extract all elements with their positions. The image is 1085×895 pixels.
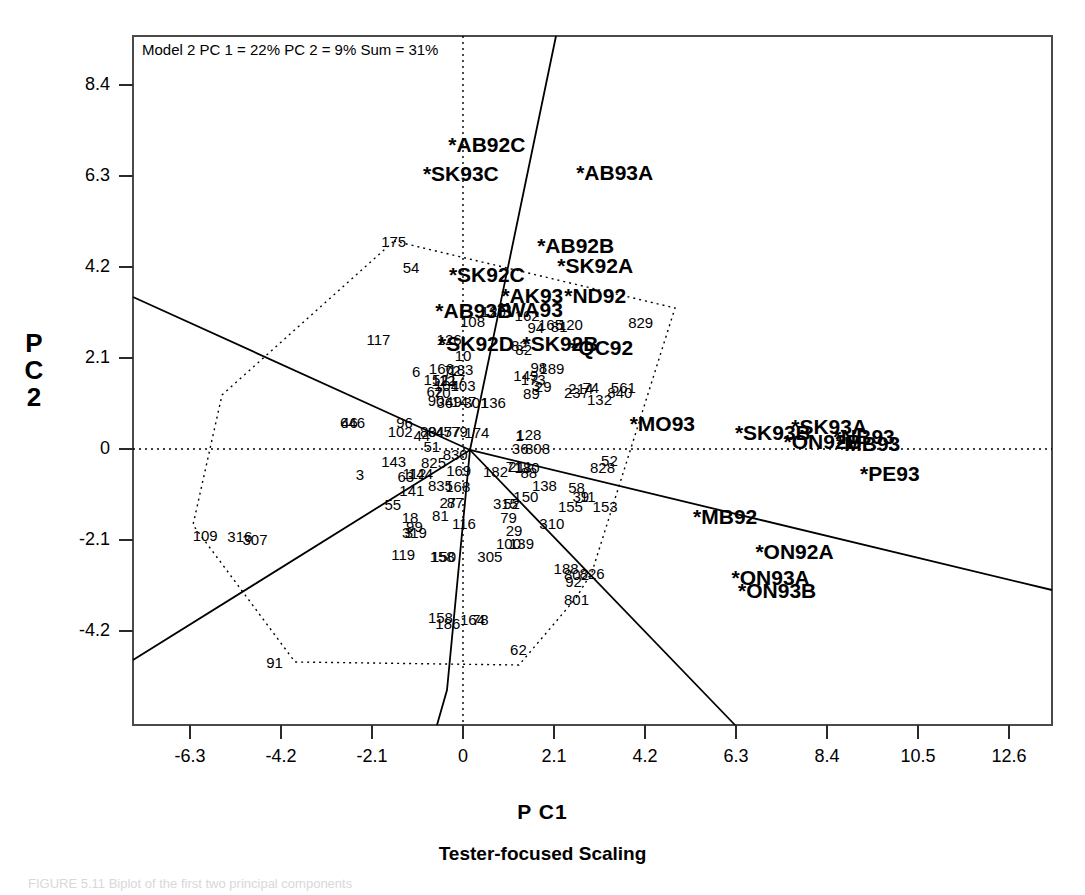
y-tick-label: -4.2 — [40, 620, 110, 641]
tester-point-label: *SK93C — [423, 162, 499, 183]
y-tick-label: 0 — [40, 438, 110, 459]
genotype-point-label: 109 — [193, 527, 218, 542]
genotype-point-label: 828 — [590, 460, 615, 475]
genotype-point-label: 89 — [523, 385, 540, 400]
tester-point-label: *ON93B — [738, 579, 816, 600]
x-tick-label: 6.3 — [701, 746, 771, 767]
y-axis-title: P C 2 — [14, 330, 54, 411]
x-tick-label: 2.1 — [519, 746, 589, 767]
genotype-point-label: 826 — [580, 565, 605, 580]
genotype-point-label: 92 — [565, 574, 582, 589]
genotype-point-label: 103 — [450, 377, 475, 392]
y-tick-label: 8.4 — [40, 74, 110, 95]
tester-point-label: *SK92D — [438, 332, 514, 353]
model-annotation: Model 2 PC 1 = 22% PC 2 = 9% Sum = 31% — [142, 41, 438, 58]
tester-point-label: *AB93A — [576, 161, 653, 182]
tester-point-label: *ON92A — [755, 540, 833, 561]
genotype-point-label: 646 — [340, 415, 365, 430]
genotype-point-label: 116 — [452, 515, 476, 530]
genotype-point-label: 62 — [510, 642, 527, 657]
x-tick-label: 12.6 — [974, 746, 1044, 767]
x-axis-title: P C1 — [0, 800, 1085, 824]
genotype-point-label: 186 — [435, 616, 460, 631]
y-axis-title-line3: 2 — [14, 384, 54, 411]
x-tick-label: -2.1 — [337, 746, 407, 767]
genotype-point-label: 136 — [481, 395, 506, 410]
x-tick-label: -4.2 — [246, 746, 316, 767]
genotype-point-label: 305 — [477, 549, 502, 564]
genotype-point-label: 801 — [564, 591, 589, 606]
tester-point-label: *MB92 — [693, 506, 757, 527]
genotype-point-label: 307 — [242, 532, 267, 547]
genotype-point-label: 141 — [399, 483, 424, 498]
biplot-figure: Model 2 PC 1 = 22% PC 2 = 9% Sum = 31% P… — [0, 0, 1085, 895]
tester-point-label: *MO93 — [630, 413, 695, 434]
tester-point-label: *SK92C — [449, 263, 525, 284]
genotype-point-label: 153 — [593, 499, 618, 514]
genotype-point-label: 155 — [558, 499, 583, 514]
genotype-point-label: 54 — [403, 260, 420, 275]
genotype-point-label: 168 — [445, 478, 470, 493]
genotype-point-label: 829 — [628, 315, 653, 330]
genotype-point-label: 174 — [464, 424, 489, 439]
genotype-point-label: 310 — [539, 515, 564, 530]
genotype-point-label: 78 — [472, 611, 489, 626]
y-tick-label: 4.2 — [40, 256, 110, 277]
genotype-point-label: 87 — [447, 494, 464, 509]
genotype-point-label: 119 — [391, 546, 415, 561]
x-tick-label: 8.4 — [792, 746, 862, 767]
genotype-point-label: 51 — [423, 438, 440, 453]
genotype-point-label: 55 — [384, 497, 401, 512]
y-tick-label: -2.1 — [40, 529, 110, 550]
y-tick-label: 2.1 — [40, 347, 110, 368]
genotype-point-label: 830 — [443, 447, 468, 462]
genotype-point-label: 81 — [432, 507, 449, 522]
x-tick-label: 4.2 — [610, 746, 680, 767]
tester-point-label: *MB93 — [836, 432, 900, 453]
tester-point-label: *QC92 — [570, 337, 633, 358]
tester-point-label: *SK92A — [557, 254, 633, 275]
figure-caption: FIGURE 5.11 Biplot of the first two prin… — [28, 876, 1058, 891]
genotype-point-label: 102 — [388, 423, 413, 438]
x-tick-label: 0 — [428, 746, 498, 767]
genotype-point-label: 182 — [483, 463, 508, 478]
genotype-point-label: 158 — [430, 549, 455, 564]
tester-point-label: *ND92 — [564, 285, 626, 306]
genotype-point-label: 132 — [587, 392, 612, 407]
genotype-point-label: 6 — [412, 364, 420, 379]
x-tick-marks — [190, 725, 1009, 739]
genotype-point-label: 808 — [525, 441, 550, 456]
genotype-point-label: 117 — [367, 331, 391, 346]
genotype-point-label: 91 — [266, 655, 283, 670]
genotype-point-label: 3 — [356, 467, 364, 482]
genotype-point-label: 175 — [381, 234, 406, 249]
tester-point-label: *WA93 — [497, 299, 562, 320]
tester-point-label: *AB92C — [448, 133, 525, 154]
y-tick-label: 6.3 — [40, 165, 110, 186]
genotype-point-label: 237 — [564, 384, 589, 399]
figure-subtitle: Tester-focused Scaling — [0, 843, 1085, 865]
y-tick-marks — [119, 85, 133, 631]
genotype-point-label: 139 — [509, 536, 534, 551]
genotype-point-label: 319 — [402, 525, 427, 540]
tester-point-label: *PE93 — [860, 462, 920, 483]
x-tick-label: 10.5 — [883, 746, 953, 767]
x-tick-label: -6.3 — [155, 746, 225, 767]
